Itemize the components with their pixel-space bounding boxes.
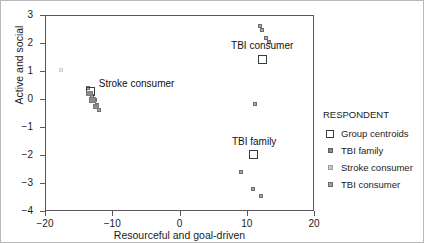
data-point-cluster [93, 104, 99, 109]
legend-title: RESPONDENT [323, 109, 423, 120]
y-tick-label: −3 [7, 178, 33, 188]
stroke-consumer-square-icon [323, 165, 337, 170]
legend-item[interactable]: Group centroids [323, 126, 423, 141]
centroid-square-icon [323, 130, 337, 138]
data-point [239, 170, 243, 174]
x-tick-mark [180, 211, 181, 216]
data-point [253, 102, 257, 106]
x-tick-mark [45, 211, 46, 216]
data-point [259, 194, 263, 198]
y-tick-label: −2 [7, 150, 33, 160]
data-point [260, 28, 264, 32]
point-annotation: Stroke consumer [99, 78, 175, 89]
legend-rows: Group centroidsTBI familyStroke consumer… [323, 126, 423, 192]
tbi-consumer-square-icon [323, 182, 337, 187]
data-point [258, 55, 267, 64]
x-tick-mark [314, 211, 315, 216]
point-annotation: TBI consumer [231, 40, 293, 51]
data-point [249, 150, 258, 159]
legend-item[interactable]: Stroke consumer [323, 160, 423, 175]
data-point-cluster [89, 97, 96, 103]
point-annotation: TBI family [232, 136, 276, 147]
x-tick-label: 20 [297, 219, 331, 229]
x-tick-label: −20 [28, 219, 62, 229]
tbi-family-square-icon [323, 148, 337, 153]
legend-item-label: TBI consumer [341, 179, 400, 190]
x-tick-label: −10 [95, 219, 129, 229]
y-tick-label: −4 [7, 206, 33, 216]
y-axis-label: Active and social [13, 5, 25, 125]
legend: RESPONDENT Group centroidsTBI familyStro… [323, 109, 423, 194]
y-tick-label: −1 [7, 122, 33, 132]
legend-item-label: Stroke consumer [341, 162, 413, 173]
y-tick-label: 2 [7, 38, 33, 48]
x-tick-mark [112, 211, 113, 216]
x-tick-label: 10 [230, 219, 264, 229]
legend-item-label: Group centroids [341, 128, 409, 139]
legend-item-label: TBI family [341, 145, 383, 156]
legend-item[interactable]: TBI consumer [323, 177, 423, 192]
data-point-cluster [86, 91, 93, 96]
y-tick-label: 1 [7, 66, 33, 76]
scatter-plot-figure: Active and social Resourceful and goal-d… [0, 0, 424, 243]
x-tick-label: 0 [163, 219, 197, 229]
data-point [59, 68, 63, 72]
y-tick-label: 3 [7, 10, 33, 20]
x-tick-mark [247, 211, 248, 216]
legend-item[interactable]: TBI family [323, 143, 423, 158]
y-tick-label: 0 [7, 94, 33, 104]
data-point [251, 187, 255, 191]
x-axis-label: Resourceful and goal-driven [45, 229, 314, 241]
plot-area: TBI consumerStroke consumerTBI family [45, 15, 314, 211]
